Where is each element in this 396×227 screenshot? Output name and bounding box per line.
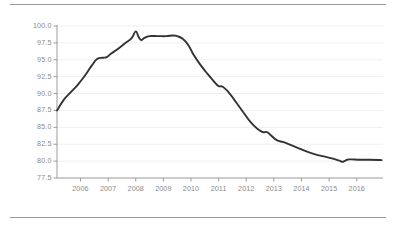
tick-marks-group	[54, 26, 357, 182]
y-tick-label: 80.0	[22, 156, 52, 165]
y-tick-label: 97.5	[22, 38, 52, 47]
data-series-line	[57, 31, 382, 161]
y-tick-label: 77.5	[22, 173, 52, 182]
x-tick-label: 2006	[65, 184, 95, 193]
x-tick-label: 2014	[287, 184, 317, 193]
axes-group	[57, 25, 383, 178]
x-tick-label: 2012	[231, 184, 261, 193]
y-tick-label: 87.5	[22, 105, 52, 114]
x-tick-label: 2008	[121, 184, 151, 193]
x-tick-label: 2007	[93, 184, 123, 193]
y-tick-label: 92.5	[22, 72, 52, 81]
y-tick-label: 85.0	[22, 122, 52, 131]
y-tick-label: 90.0	[22, 89, 52, 98]
y-tick-label: 95.0	[22, 55, 52, 64]
x-tick-label: 2016	[342, 184, 372, 193]
gridlines-group	[57, 26, 383, 161]
x-tick-label: 2010	[176, 184, 206, 193]
x-tick-label: 2011	[204, 184, 234, 193]
x-tick-label: 2015	[314, 184, 344, 193]
chart-figure: 100.097.595.092.590.087.585.082.580.077.…	[0, 0, 396, 227]
y-tick-label: 100.0	[22, 21, 52, 30]
x-tick-label: 2009	[148, 184, 178, 193]
y-tick-label: 82.5	[22, 139, 52, 148]
x-tick-label: 2013	[259, 184, 289, 193]
